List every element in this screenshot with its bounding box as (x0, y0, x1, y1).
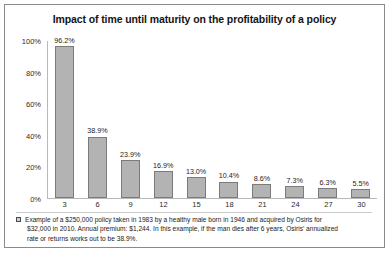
x-axis-tick: 30 (345, 200, 378, 209)
legend-marker-icon (16, 217, 21, 222)
bar[interactable] (154, 171, 173, 198)
x-axis-tick: 9 (114, 200, 147, 209)
bar-slot: 10.4% (213, 41, 246, 198)
bar-value-label: 16.9% (153, 161, 173, 170)
bar-value-label: 5.5% (352, 179, 368, 188)
x-axis-tick: 18 (213, 200, 246, 209)
bar-value-label: 96.2% (54, 36, 74, 45)
footnote: Example of a $250,000 policy taken in 19… (16, 212, 372, 243)
y-axis: 0%20%40%60%80%100% (5, 41, 45, 199)
y-axis-tick: 100% (22, 37, 41, 46)
bar-slot: 8.6% (245, 41, 278, 198)
x-axis-tick: 24 (279, 200, 312, 209)
footnote-line-3: rate or returns works out to be 38.9%. (25, 234, 372, 243)
bar[interactable] (187, 177, 206, 198)
chart-title: Impact of time until maturity on the pro… (5, 13, 384, 25)
y-axis-tick: 0% (30, 195, 41, 204)
bar[interactable] (252, 184, 271, 198)
bar-value-label: 13.0% (186, 167, 206, 176)
bar[interactable] (351, 189, 370, 198)
x-axis-tick: 15 (180, 200, 213, 209)
y-axis-tick: 40% (26, 131, 41, 140)
x-axis-tick: 3 (48, 200, 81, 209)
chart-container: Impact of time until maturity on the pro… (4, 4, 385, 248)
bar[interactable] (88, 137, 107, 198)
bar[interactable] (285, 186, 304, 198)
bar-value-label: 7.3% (287, 176, 303, 185)
footnote-line-1: Example of a $250,000 policy taken in 19… (25, 215, 372, 224)
x-axis-tick: 12 (147, 200, 180, 209)
bar-value-label: 38.9% (87, 126, 107, 135)
bar-slot: 16.9% (147, 41, 180, 198)
bar[interactable] (121, 160, 140, 198)
bar-slot: 5.5% (344, 41, 377, 198)
y-axis-tick: 60% (26, 100, 41, 109)
bar-value-label: 6.3% (320, 178, 336, 187)
bar-slot: 23.9% (114, 41, 147, 198)
x-axis-tick: 21 (246, 200, 279, 209)
bar[interactable] (55, 46, 74, 198)
bar-value-label: 8.6% (254, 174, 270, 183)
bar[interactable] (219, 182, 238, 198)
bar-value-label: 10.4% (219, 171, 239, 180)
bar-slot: 38.9% (81, 41, 114, 198)
bar[interactable] (318, 188, 337, 198)
bar-slot: 96.2% (48, 41, 81, 198)
y-axis-tick: 80% (26, 68, 41, 77)
x-axis-tick: 27 (312, 200, 345, 209)
bar-slot: 6.3% (311, 41, 344, 198)
x-axis-tick: 6 (81, 200, 114, 209)
footnote-line-2: $32,000 in 2010. Annual premium: $1,244.… (25, 224, 372, 233)
y-axis-tick: 20% (26, 163, 41, 172)
bar-series: 96.2%38.9%23.9%16.9%13.0%10.4%8.6%7.3%6.… (48, 41, 377, 198)
bar-slot: 13.0% (180, 41, 213, 198)
footnote-inner: Example of a $250,000 policy taken in 19… (16, 215, 372, 243)
bar-slot: 7.3% (278, 41, 311, 198)
plot-area: 96.2%38.9%23.9%16.9%13.0%10.4%8.6%7.3%6.… (47, 41, 377, 199)
bar-value-label: 23.9% (120, 150, 140, 159)
